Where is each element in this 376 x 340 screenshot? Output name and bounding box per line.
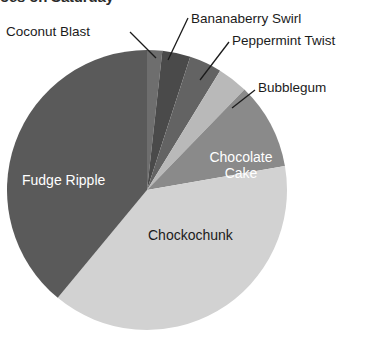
pie-chart [0, 0, 376, 340]
pie-label-coconut-blast: Coconut Blast [6, 24, 90, 39]
pie-slices [7, 50, 287, 330]
pie-chart-svg [0, 0, 376, 340]
pie-label-fudge-ripple: Fudge Ripple [22, 172, 105, 188]
pie-label-peppermint-twist: Peppermint Twist [232, 33, 335, 48]
pie-label-chocolate-cake-line2: Cake [196, 165, 286, 181]
pie-label-chocolate-cake-line1: Chocolate [196, 149, 286, 165]
pie-label-chockochunk: Chockochunk [148, 227, 233, 243]
pie-label-bubblegum: Bubblegum [258, 80, 326, 95]
chart-canvas: oes on Saturday Coconut Blast Bananaberr… [0, 0, 376, 340]
pie-label-bananaberry-swirl: Bananaberry Swirl [191, 11, 301, 26]
pie-label-chocolate-cake: Chocolate Cake [196, 149, 286, 181]
